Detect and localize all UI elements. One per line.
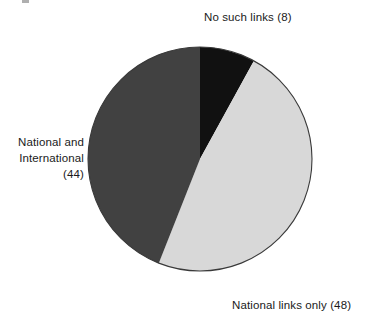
- pie-label-no-such-links: No such links (8): [204, 9, 292, 25]
- pie-label-line-1: National and: [0, 134, 84, 150]
- pie-label-national-links-only: National links only (48): [232, 297, 351, 313]
- pie-label-national-and-international: National and International (44): [0, 134, 84, 182]
- pie-label-line-2: International: [0, 150, 84, 166]
- pie-label-line-3: (44): [0, 166, 84, 182]
- pie-slices: [88, 47, 312, 271]
- pie-chart-figure: No such links (8) National and Internati…: [0, 0, 371, 324]
